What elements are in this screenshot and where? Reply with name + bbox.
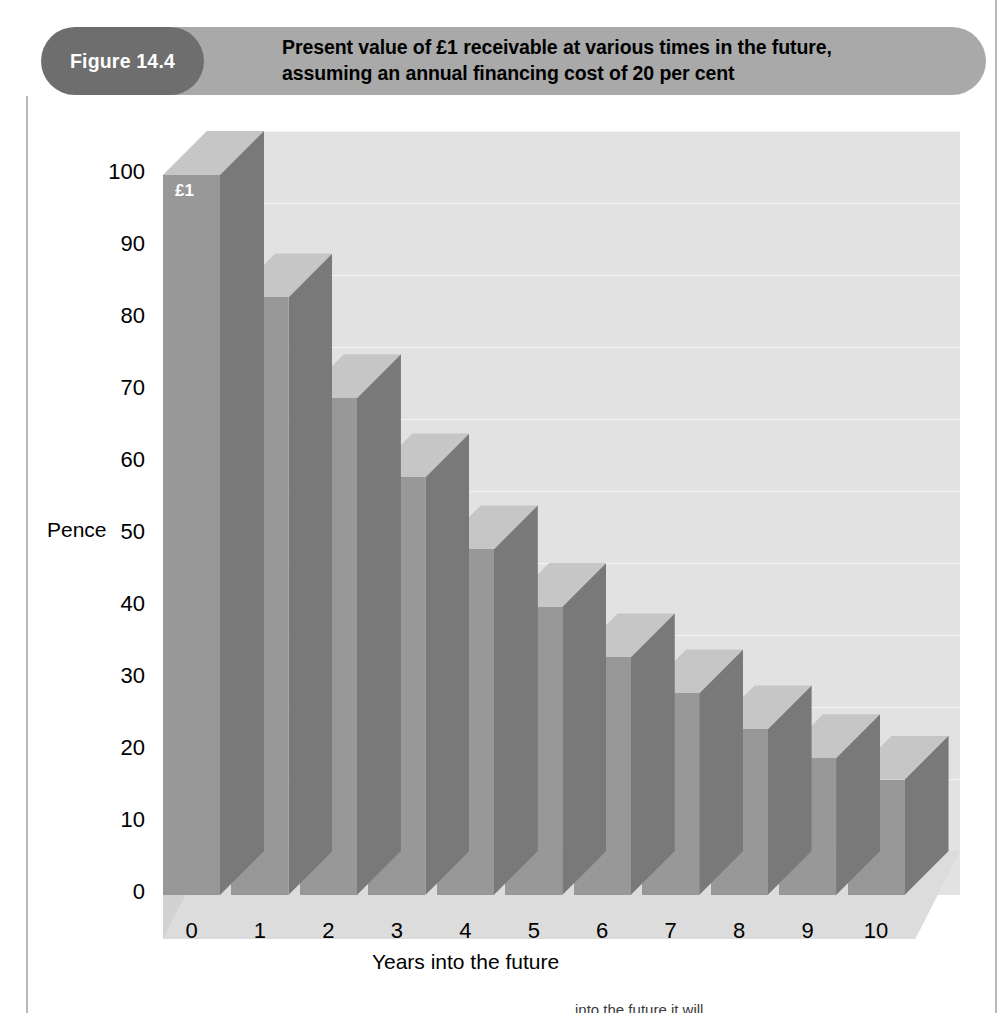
x-tick-label: 2 (303, 918, 353, 944)
y-tick-label: 0 (75, 879, 145, 905)
bar-side-face (357, 354, 401, 895)
bar-side-face (425, 433, 469, 895)
y-axis-label: Pence (47, 518, 107, 542)
y-tick-label: 40 (75, 591, 145, 617)
bar-side-face (631, 613, 675, 895)
x-axis-label-wrap: Years into the future (0, 950, 1003, 974)
bar: £1 (163, 131, 264, 895)
x-tick-label: 7 (646, 918, 696, 944)
x-tick-label: 1 (235, 918, 285, 944)
x-tick-label: 8 (714, 918, 764, 944)
x-tick-label: 9 (783, 918, 833, 944)
y-tick-label: 70 (75, 375, 145, 401)
gridline (207, 203, 960, 204)
x-tick-label: 6 (577, 918, 627, 944)
x-tick-label: 0 (167, 918, 217, 944)
bar-side-face (562, 563, 606, 895)
bar-side-face (288, 253, 332, 895)
y-tick-label: 30 (75, 663, 145, 689)
bar-annotation-label: £1 (175, 181, 194, 201)
y-tick-label: 100 (75, 159, 145, 185)
clipped-body-text: …into the future it will (560, 1001, 990, 1013)
x-tick-label: 4 (440, 918, 490, 944)
gridline (207, 131, 960, 132)
bar-chart: £1 0102030405060708090100 012345678910 P… (0, 0, 1003, 1013)
bar-front-face (163, 175, 220, 895)
x-tick-label: 3 (372, 918, 422, 944)
y-tick-label: 20 (75, 735, 145, 761)
y-tick-label: 90 (75, 231, 145, 257)
y-tick-label: 80 (75, 303, 145, 329)
y-tick-label: 10 (75, 807, 145, 833)
x-tick-label: 10 (851, 918, 901, 944)
y-tick-label: 60 (75, 447, 145, 473)
x-tick-label: 5 (509, 918, 559, 944)
bar-side-face (494, 505, 538, 895)
figure-page: Present value of £1 receivable at variou… (0, 0, 1003, 1013)
bar-side-face (220, 131, 264, 895)
x-axis-label: Years into the future (372, 950, 559, 974)
